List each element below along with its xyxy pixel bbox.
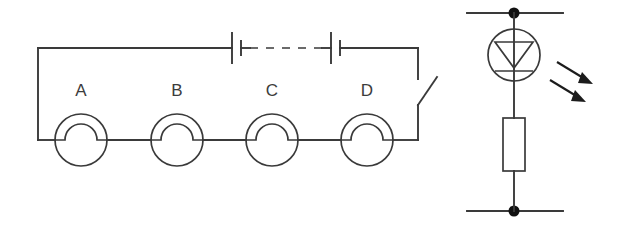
- lamp-a-label: A: [75, 81, 87, 100]
- open-switch-blade[interactable]: [418, 77, 437, 105]
- lamp-c[interactable]: [246, 114, 298, 166]
- resistor[interactable]: [503, 118, 525, 171]
- left-series-lamp-circuit: A B C D: [38, 33, 437, 166]
- lamp-b-label: B: [171, 81, 182, 100]
- lamp-b-filament: [151, 124, 203, 140]
- lamp-d-label: D: [361, 81, 373, 100]
- resistor-body: [503, 118, 525, 171]
- lamp-a[interactable]: [55, 114, 107, 166]
- right-photodiode-circuit: [467, 8, 593, 217]
- lamp-c-filament: [246, 124, 298, 140]
- lamp-c-label: C: [266, 81, 278, 100]
- light-arrow-lower-head: [571, 90, 586, 102]
- lamp-a-filament: [55, 124, 107, 140]
- light-arrow-lower: [550, 80, 586, 102]
- photodiode[interactable]: [488, 29, 540, 81]
- lamp-b[interactable]: [151, 114, 203, 166]
- lamp-d[interactable]: [341, 114, 393, 166]
- light-arrow-upper: [557, 62, 593, 84]
- light-arrow-upper-head: [578, 72, 593, 84]
- circuit-diagram-svg: A B C D: [0, 0, 627, 244]
- battery-cell-left: [232, 33, 250, 63]
- figure-canvas: A B C D: [0, 0, 627, 244]
- battery-cell-right: [322, 33, 340, 63]
- lamp-d-filament: [341, 124, 393, 140]
